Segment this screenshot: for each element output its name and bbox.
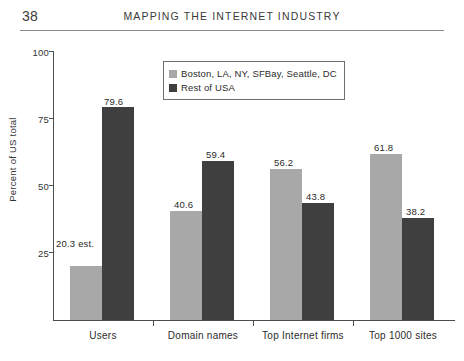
category-label-users: Users: [53, 330, 153, 341]
chart-legend: Boston, LA, NY, SFBay, Seattle, DC Rest …: [163, 61, 345, 100]
y-axis-title: Percent of US total: [7, 60, 18, 260]
value-label-users-metros: 20.3 est.: [56, 238, 94, 249]
bar-domains-metros[interactable]: [170, 211, 202, 320]
running-title: MAPPING THE INTERNET INDUSTRY: [0, 10, 464, 22]
bar-users-metros[interactable]: [70, 266, 102, 320]
y-tick-100: 100: [0, 47, 49, 58]
bar-users-rest[interactable]: [102, 107, 134, 320]
bar-firms-rest[interactable]: [302, 203, 334, 320]
value-label-firms-rest: 43.8: [306, 191, 325, 202]
value-label-firms-metros: 56.2: [274, 157, 293, 168]
y-tick-25: 25: [0, 248, 49, 259]
y-tick-label-50: 50: [21, 181, 49, 192]
bar-sites-metros[interactable]: [370, 154, 402, 320]
category-label-top-internet-firms: Top Internet firms: [251, 330, 355, 341]
category-label-domain-names: Domain names: [153, 330, 253, 341]
x-tick-2: [253, 321, 254, 326]
y-tick-label-75: 75: [21, 114, 49, 125]
page-header: 38 MAPPING THE INTERNET INDUSTRY: [0, 0, 464, 34]
legend-label-rest-of-usa: Rest of USA: [181, 82, 235, 93]
legend-swatch-icon-metros: [169, 70, 177, 78]
y-tick-75: 75: [0, 114, 49, 125]
bar-domains-rest[interactable]: [202, 161, 234, 320]
x-axis-line: [53, 320, 455, 321]
value-label-sites-rest: 38.2: [406, 206, 425, 217]
value-label-sites-metros: 61.8: [374, 142, 393, 153]
legend-item-metros[interactable]: Boston, LA, NY, SFBay, Seattle, DC: [169, 67, 339, 80]
value-label-domains-metros: 40.6: [174, 199, 193, 210]
legend-item-rest-of-usa[interactable]: Rest of USA: [169, 81, 339, 94]
bar-firms-metros[interactable]: [270, 169, 302, 320]
y-tick-label-100: 100: [21, 47, 49, 58]
y-tick-label-25: 25: [21, 248, 49, 259]
x-tick-1: [153, 321, 154, 326]
bar-sites-rest[interactable]: [402, 218, 434, 320]
legend-swatch-icon-rest-of-usa: [169, 84, 177, 92]
x-tick-3: [353, 321, 354, 326]
legend-label-metros: Boston, LA, NY, SFBay, Seattle, DC: [181, 68, 337, 79]
value-label-domains-rest: 59.4: [206, 149, 225, 160]
category-label-top-1000-sites: Top 1000 sites: [353, 330, 453, 341]
header-rule: [20, 30, 444, 31]
y-tick-50: 50: [0, 181, 49, 192]
bar-chart-figure: Percent of US total 100 75 50 25 20.3 es…: [0, 34, 464, 361]
value-label-users-rest: 79.6: [104, 96, 123, 107]
